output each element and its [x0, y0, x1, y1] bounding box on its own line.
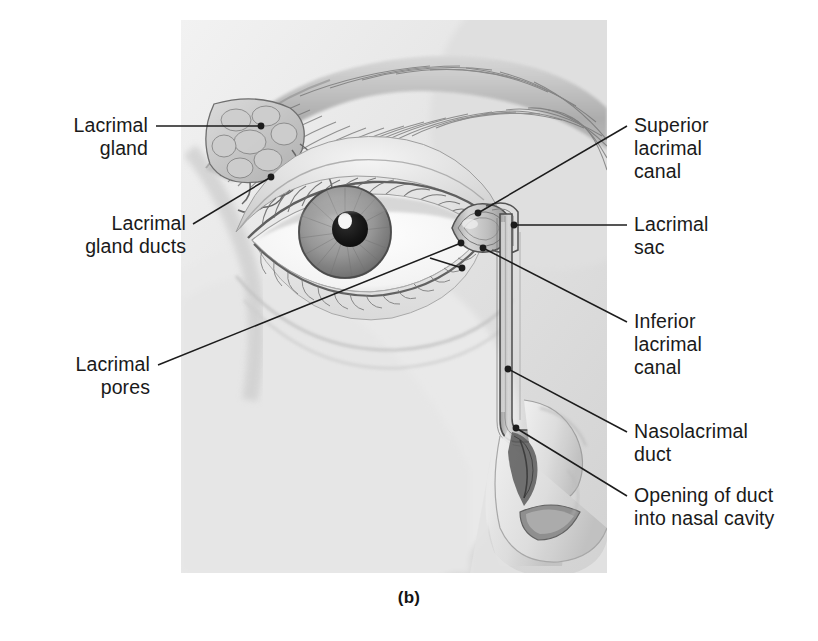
label-line: sac	[634, 236, 709, 259]
leader-dot-lacrimal-gland	[258, 123, 265, 130]
label-line: Inferior	[634, 310, 702, 333]
label-lacrimal-sac: Lacrimalsac	[634, 213, 709, 259]
label-line: Lacrimal	[634, 213, 709, 236]
label-opening-of-duct: Opening of ductinto nasal cavity	[634, 484, 774, 530]
label-line: Lacrimal	[74, 114, 149, 137]
label-line: lacrimal	[634, 333, 702, 356]
label-line: pores	[76, 376, 151, 399]
label-lacrimal-gland-ducts: Lacrimalgland ducts	[85, 212, 186, 258]
label-lacrimal-gland: Lacrimalgland	[74, 114, 149, 160]
label-line: Lacrimal	[85, 212, 186, 235]
label-lacrimal-pores: Lacrimalpores	[76, 353, 151, 399]
leader-dot-lacrimal-pores-branch	[459, 265, 466, 272]
label-line: Nasolacrimal	[634, 420, 748, 443]
label-superior-lacrimal-canal: Superiorlacrimalcanal	[634, 114, 709, 183]
label-line: lacrimal	[634, 137, 709, 160]
label-line: gland	[74, 137, 149, 160]
label-line: Lacrimal	[76, 353, 151, 376]
leader-dot-nasolacrimal-duct	[505, 366, 512, 373]
leader-dot-opening-of-duct	[513, 425, 520, 432]
paper-grain	[181, 20, 607, 573]
label-line: Superior	[634, 114, 709, 137]
leader-dot-lacrimal-pores	[458, 240, 465, 247]
leader-dot-lacrimal-sac	[511, 222, 518, 229]
leader-dot-lacrimal-gland-ducts	[268, 174, 275, 181]
leader-dot-inferior-lacrimal-canal	[480, 245, 487, 252]
label-line: duct	[634, 443, 748, 466]
label-line: into nasal cavity	[634, 507, 774, 530]
label-line: canal	[634, 160, 709, 183]
label-line: Opening of duct	[634, 484, 774, 507]
label-inferior-lacrimal-canal: Inferiorlacrimalcanal	[634, 310, 702, 379]
label-line: canal	[634, 356, 702, 379]
figure-caption: (b)	[0, 588, 818, 608]
label-line: gland ducts	[85, 235, 186, 258]
label-nasolacrimal-duct: Nasolacrimalduct	[634, 420, 748, 466]
leader-dot-superior-lacrimal-canal	[475, 210, 482, 217]
